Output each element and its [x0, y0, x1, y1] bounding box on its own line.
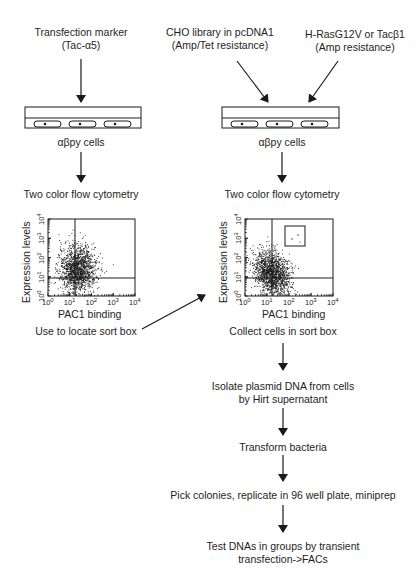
- scatter-plot-right: [245, 219, 333, 296]
- ras-tac-line2: (Amp resistance): [296, 41, 414, 54]
- step-test-line1: Test DNAs in groups by transient: [203, 540, 363, 553]
- step-isolate-line2: by Hirt supernatant: [203, 393, 363, 406]
- y-tick-label: 104: [233, 213, 243, 225]
- xlabel-left: PAC1 binding: [58, 308, 121, 320]
- x-tick-label: 101: [261, 297, 273, 307]
- step-pick-colonies: Pick colonies, replicate in 96 well plat…: [163, 489, 403, 502]
- cell-dish-right: [222, 107, 339, 128]
- step-isolate-line1: Isolate plasmid DNA from cells: [203, 380, 363, 393]
- transfection-marker-line2: (Tac-α5): [31, 39, 131, 52]
- step-test-line2: transfection->FACs: [203, 553, 363, 566]
- y-tick-label: 100: [36, 290, 46, 302]
- assay-label-left: Two color flow cytometry: [20, 188, 142, 201]
- x-tick-label: 101: [64, 297, 76, 307]
- step-transform-bacteria: Transform bacteria: [223, 441, 343, 454]
- y-tick-label: 102: [36, 252, 46, 264]
- ylabel-right: Expression levels: [217, 221, 229, 303]
- x-tick-label: 104: [129, 297, 141, 307]
- y-tick-label: 100: [233, 290, 243, 302]
- sort-box: [285, 226, 305, 246]
- transfection-marker-label: Transfection marker (Tac-α5): [31, 26, 131, 52]
- cell-dish-left: [25, 107, 141, 128]
- xlabel-right: PAC1 binding: [262, 308, 325, 320]
- y-tick-label: 101: [36, 271, 46, 283]
- collect-sort-box-label: Collect cells in sort box: [218, 325, 348, 338]
- locate-sort-box-label: Use to locate sort box: [26, 325, 146, 338]
- ras-tac-label: H-RasG12V or Tacβ1 (Amp resistance): [296, 28, 414, 54]
- y-tick-label: 102: [233, 252, 243, 264]
- x-tick-label: 102: [86, 297, 98, 307]
- cells-label-left: αβpy cells: [41, 136, 121, 149]
- y-tick-label: 104: [36, 213, 46, 225]
- arrow-library-to-cells: [237, 61, 268, 102]
- cho-library-line1: CHO library in pcDNA1: [160, 26, 280, 39]
- scatter-plot-left: [48, 219, 135, 297]
- step-isolate-plasmid: Isolate plasmid DNA from cells by Hirt s…: [203, 380, 363, 406]
- arrow-sort-box-transfer: [142, 295, 205, 329]
- x-tick-label: 103: [305, 297, 317, 307]
- y-tick-label: 103: [233, 233, 243, 245]
- x-tick-label: 102: [283, 297, 295, 307]
- arrow-ras-to-cells: [309, 61, 338, 102]
- cho-library-label: CHO library in pcDNA1 (Amp/Tet resistanc…: [160, 26, 280, 52]
- y-tick-label: 103: [36, 233, 46, 245]
- y-tick-label: 101: [233, 271, 243, 283]
- transfection-marker-line1: Transfection marker: [31, 26, 131, 39]
- cho-library-line2: (Amp/Tet resistance): [160, 39, 280, 52]
- step-test-dnas: Test DNAs in groups by transient transfe…: [203, 540, 363, 566]
- assay-label-right: Two color flow cytometry: [220, 188, 344, 201]
- ylabel-left: Expression levels: [20, 221, 32, 303]
- ras-tac-line1: H-RasG12V or Tacβ1: [296, 28, 414, 41]
- cells-label-right: αβpy cells: [242, 136, 322, 149]
- x-tick-label: 104: [327, 297, 339, 307]
- x-tick-label: 103: [107, 297, 119, 307]
